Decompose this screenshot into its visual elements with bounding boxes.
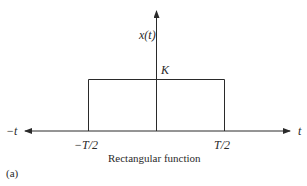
left-edge-label: −T/2 [74, 139, 98, 151]
panel-label: (a) [6, 168, 18, 179]
figure-caption: Rectangular function [108, 153, 201, 164]
t-label: t [298, 125, 301, 137]
neg-t-label: −t [6, 125, 17, 137]
right-edge-label: T/2 [214, 139, 230, 151]
y-axis-label: x(t) [139, 29, 156, 41]
amplitude-label: K [161, 64, 169, 76]
